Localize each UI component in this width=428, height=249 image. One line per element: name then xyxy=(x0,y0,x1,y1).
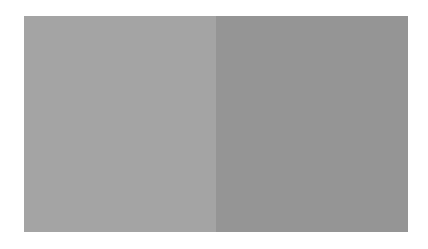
right-gray-panel xyxy=(216,16,408,232)
left-gray-panel xyxy=(24,16,216,232)
